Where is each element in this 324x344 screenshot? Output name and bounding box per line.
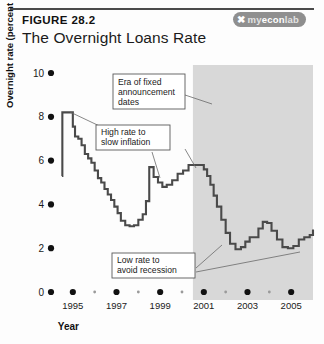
callout-high-rate-line1: High rate to [101, 127, 146, 137]
callout-low-rate-line2: avoid recession [117, 265, 177, 275]
y-tick-label: 10 [33, 68, 45, 79]
x-tick-dot [244, 289, 250, 295]
x-minor-tick-dot [268, 291, 271, 294]
overnight-loans-rate-chart: 0246810 199519971999200120032005 Year Er… [0, 0, 324, 344]
y-tick-dot [48, 245, 54, 251]
callout-era-fixed-line1: Era of fixed [118, 77, 162, 87]
callout-era-fixed-line3: dates [118, 97, 139, 107]
callout-high-rate: High rate to slow inflation [96, 125, 170, 150]
footer-spacer [0, 330, 324, 344]
callout-era-fixed-line2: announcement [118, 87, 175, 97]
callout-high-rate-line2: slow inflation [101, 137, 150, 147]
chart-area: Overnight rate (percent per year) 024681… [0, 0, 324, 344]
y-tick-label: 0 [38, 287, 44, 298]
x-tick-label: 1999 [150, 300, 171, 311]
y-tick-label: 4 [38, 199, 44, 210]
x-tick-dot [113, 289, 119, 295]
x-tick-dot [70, 289, 76, 295]
y-axis-label: Overnight rate (percent per year) [4, 0, 15, 108]
y-tick-label: 8 [38, 111, 44, 122]
x-tick-label: 2003 [237, 300, 258, 311]
y-tick-label: 6 [38, 155, 44, 166]
x-tick-label: 1997 [106, 300, 127, 311]
y-tick-dot [48, 158, 54, 164]
x-tick-dot [157, 289, 163, 295]
callout-low-rate: Low rate to avoid recession [112, 253, 195, 278]
y-tick-dot [48, 201, 54, 207]
x-minor-tick-dot [93, 291, 96, 294]
y-tick-label: 2 [38, 243, 44, 254]
x-tick-dot [201, 289, 207, 295]
x-minor-tick-dot [137, 291, 140, 294]
y-tick-dot [48, 114, 54, 120]
callout-era-fixed: Era of fixed announcement dates [113, 74, 185, 109]
x-tick-label: 1995 [62, 300, 83, 311]
x-minor-tick-dot [181, 291, 184, 294]
y-tick-dot [48, 70, 54, 76]
x-tick-label: 2005 [281, 300, 302, 311]
y-tick-dot [48, 289, 54, 295]
y-axis-ticks: 0246810 [33, 68, 54, 298]
figure-card: FIGURE 28.2 The Overnight Loans Rate ✖ m… [0, 0, 324, 344]
callout-low-rate-line1: Low rate to [117, 255, 160, 265]
x-minor-tick-dot [224, 291, 227, 294]
x-tick-label: 2001 [193, 300, 214, 311]
x-tick-dot [288, 289, 294, 295]
